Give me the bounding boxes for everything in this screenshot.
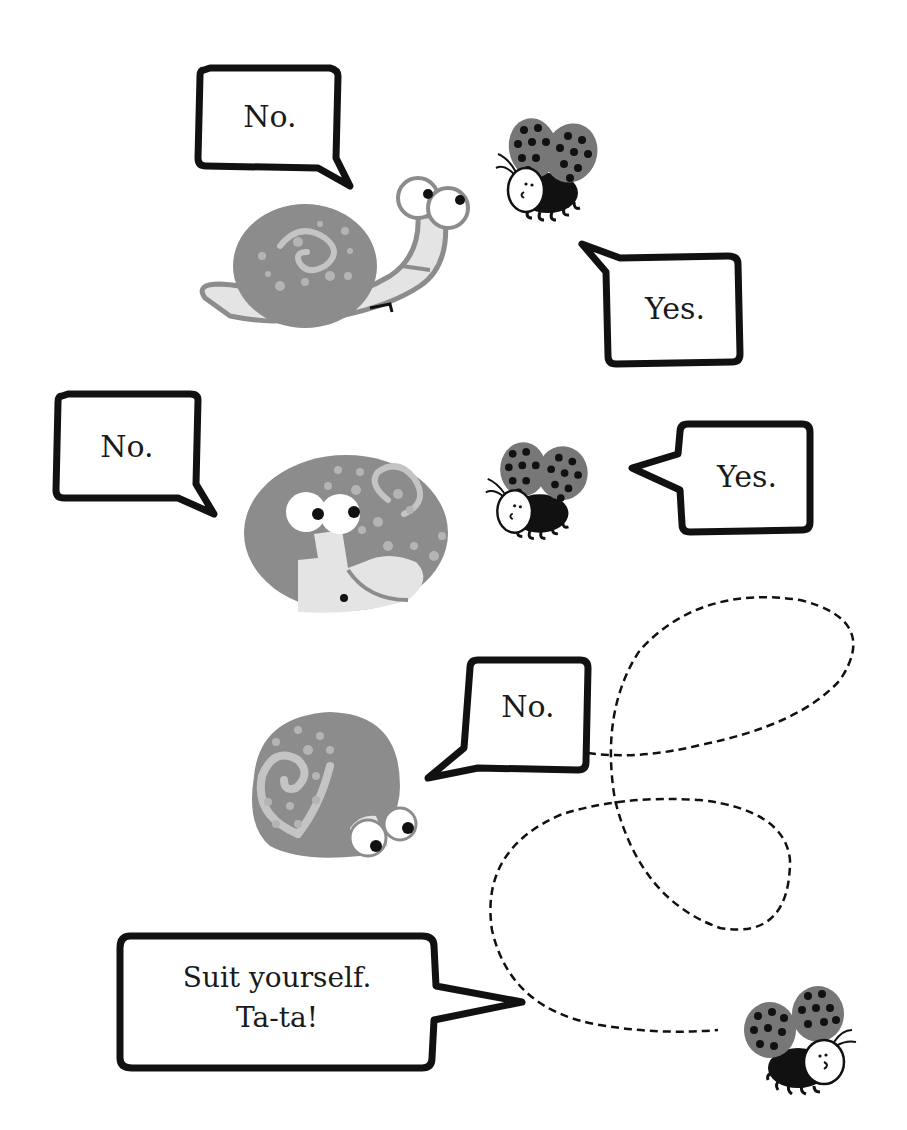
ladybug-bee-icon	[728, 982, 858, 1100]
speech-bubble-bee-final: Suit yourself. Ta-ta!	[112, 918, 532, 1076]
bubble-text-line1: Suit yourself.	[126, 960, 428, 995]
snail-3	[240, 706, 416, 862]
snail-icon	[240, 706, 416, 862]
bubble-text: No.	[472, 688, 584, 726]
bee-3	[728, 982, 858, 1100]
speech-bubble-snail-3: No.	[424, 652, 594, 782]
speech-bubble-shape	[112, 918, 532, 1076]
bubble-text-line2: Ta-ta!	[126, 1000, 428, 1035]
